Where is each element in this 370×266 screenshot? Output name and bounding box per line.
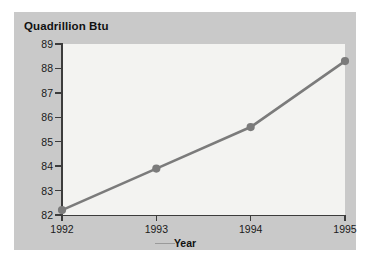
y-tick-label: 82 <box>13 209 53 221</box>
y-tick-label: 83 <box>13 185 53 197</box>
x-axis-line <box>61 215 346 217</box>
y-tick <box>55 43 61 45</box>
chart-panel: Quadrillion Btu 8283848586878889 1992199… <box>14 12 356 250</box>
y-axis-line <box>61 43 63 216</box>
x-axis-title: Year <box>14 237 356 249</box>
plot-area <box>62 44 345 215</box>
x-tick <box>250 215 252 221</box>
x-tick-label: 1995 <box>315 223 370 235</box>
y-tick <box>55 117 61 119</box>
y-tick <box>55 165 61 167</box>
chart-title: Quadrillion Btu <box>24 20 109 32</box>
y-tick <box>55 214 61 216</box>
y-tick-label: 86 <box>13 111 53 123</box>
y-tick-label: 85 <box>13 136 53 148</box>
y-tick <box>55 141 61 143</box>
y-tick <box>55 190 61 192</box>
x-tick-label: 1993 <box>126 223 186 235</box>
x-tick <box>156 215 158 221</box>
x-tick <box>344 215 346 221</box>
y-tick-label: 88 <box>13 62 53 74</box>
y-tick <box>55 92 61 94</box>
y-tick <box>55 68 61 70</box>
x-tick-label: 1992 <box>32 223 92 235</box>
y-tick-label: 89 <box>13 38 53 50</box>
x-tick <box>61 215 63 221</box>
figure: Quadrillion Btu 8283848586878889 1992199… <box>0 0 370 266</box>
x-tick-label: 1994 <box>221 223 281 235</box>
y-tick-label: 84 <box>13 160 53 172</box>
y-tick-label: 87 <box>13 87 53 99</box>
